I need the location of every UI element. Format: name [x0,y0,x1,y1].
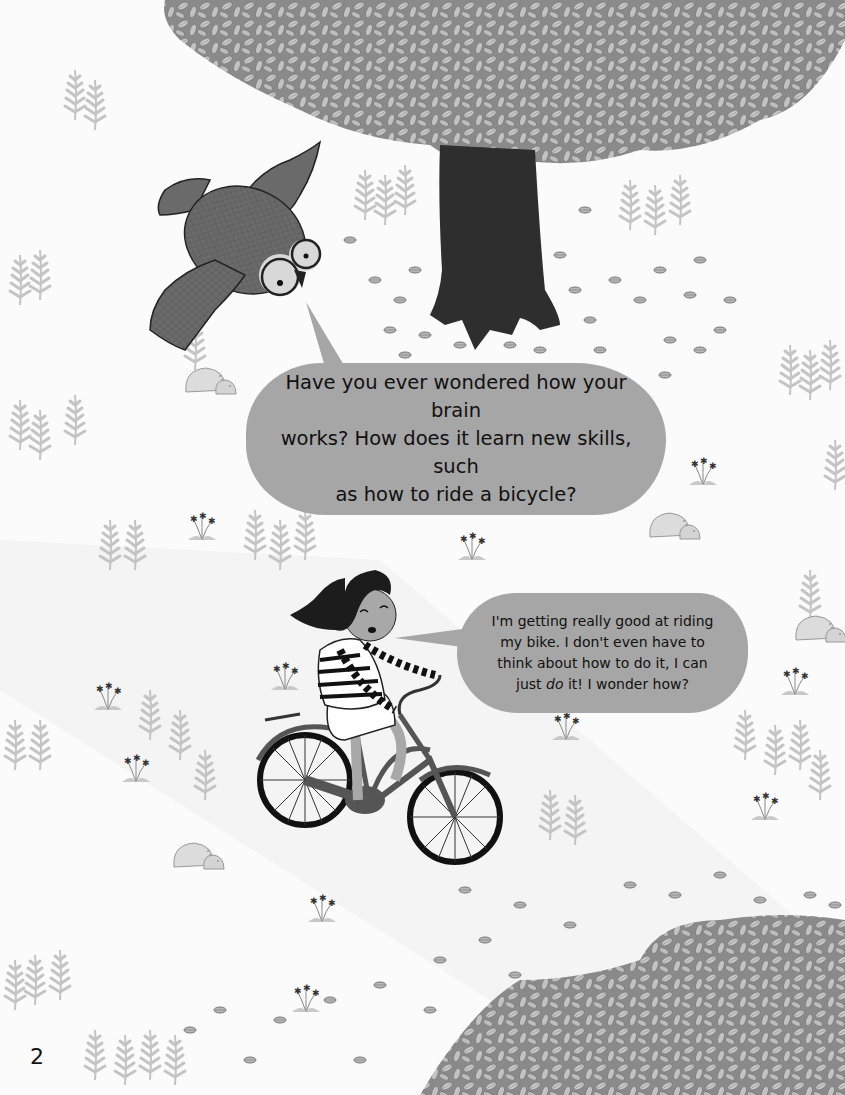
owl-bubble-line-3: as how to ride a bicycle? [335,483,576,506]
page-number: 2 [30,1044,44,1069]
girl-bubble-line-4-post: it! I wonder how? [564,676,689,692]
girl-bubble-line-4-pre: just [516,676,546,692]
girl-bubble-line-2: my bike. I don't even have to [500,634,705,650]
owl-bubble-line-2: works? How does it learn new skills, suc… [281,427,632,478]
owl-bubble-line-1: Have you ever wondered how your brain [285,371,626,422]
owl-speech-bubble: Have you ever wondered how your brain wo… [246,363,666,515]
tree-canopy [164,0,845,165]
illustration-scene: ✱ ✱ ✱ [0,0,845,1095]
owl-bubble-tail [306,302,345,367]
girl-bubble-line-1: I'm getting really good at riding [492,613,714,629]
girl-bubble-emphasis: do [546,676,563,692]
owl-character [150,142,323,350]
girl-bubble-line-3: think about how to do it, I can [497,655,707,671]
girl-speech-bubble: I'm getting really good at riding my bik… [457,593,748,713]
tree-trunk [430,145,560,350]
